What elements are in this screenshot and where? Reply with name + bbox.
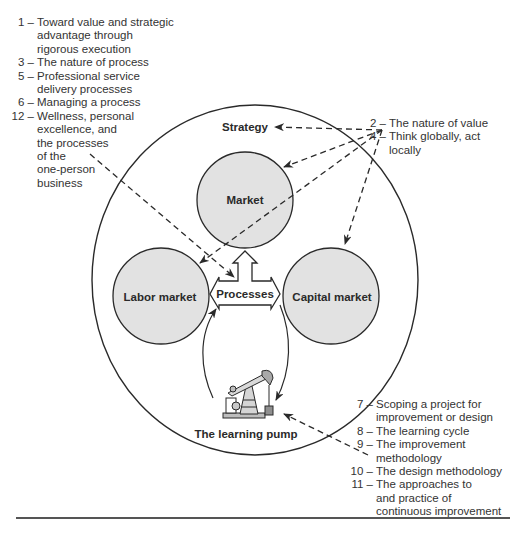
notes-top-right: 2 –The nature of value 4 –Think globally…	[358, 117, 488, 157]
note-text: Scoping a project for	[376, 398, 481, 411]
note-number: 9 –	[345, 438, 376, 451]
note-text: delivery processes	[6, 83, 174, 96]
caption-divider	[16, 517, 510, 519]
note-text: Managing a process	[37, 96, 141, 109]
note-number: 7 –	[345, 398, 376, 411]
note-text: one-person	[6, 163, 174, 176]
note-number: 5 –	[6, 70, 37, 83]
note-text: locally	[358, 144, 488, 157]
note-text: Toward value and strategic	[37, 16, 174, 29]
learning-cycle-left-arrow	[203, 309, 216, 398]
oil-pump-icon	[223, 370, 273, 418]
note-number: 1 –	[6, 16, 37, 29]
note-number: 2 –	[358, 117, 389, 130]
note-text: business	[6, 177, 174, 190]
note-text: The nature of process	[37, 56, 149, 69]
note-text: The approaches to	[376, 478, 472, 491]
note-text: Think globally, act	[389, 130, 480, 143]
note-text: Wellness, personal	[37, 110, 134, 123]
note-number: 3 –	[6, 56, 37, 69]
processes-arrow-shape	[210, 251, 280, 309]
note-text: advantage through	[6, 29, 174, 42]
note-text: The nature of value	[389, 117, 488, 130]
processes-label: Processes	[216, 288, 274, 300]
labor-market-label: Labor market	[124, 291, 197, 303]
note-text: improvement or design	[345, 411, 502, 424]
note-text: The design methodology	[376, 465, 502, 478]
strategy-label: Strategy	[222, 121, 268, 133]
notes-bottom-right: 7 –Scoping a project for improvement or …	[345, 398, 502, 519]
note-text: The learning cycle	[376, 425, 469, 438]
notes-top-left: 1 –Toward value and strategic advantage …	[6, 16, 174, 190]
learning-cycle-right-arrow	[276, 305, 289, 400]
note-text: methodology	[345, 452, 502, 465]
note-text: excellence, and	[6, 123, 174, 136]
capital-market-label: Capital market	[292, 291, 371, 303]
note-text: The improvement	[376, 438, 465, 451]
note-number: 10 –	[345, 465, 376, 478]
note-number: 11 –	[345, 478, 376, 491]
note-number: 4 –	[358, 130, 389, 143]
learning-pump-label: The learning pump	[195, 428, 298, 440]
note-number: 6 –	[6, 96, 37, 109]
note-number: 8 –	[345, 425, 376, 438]
note-text: rigorous execution	[6, 43, 174, 56]
note-text: the processes	[6, 137, 174, 150]
market-label: Market	[226, 194, 263, 206]
note-text: and practice of	[345, 492, 502, 505]
note-number: 12 –	[6, 110, 37, 123]
note-text: of the	[6, 150, 174, 163]
note-text: Professional service	[37, 70, 140, 83]
